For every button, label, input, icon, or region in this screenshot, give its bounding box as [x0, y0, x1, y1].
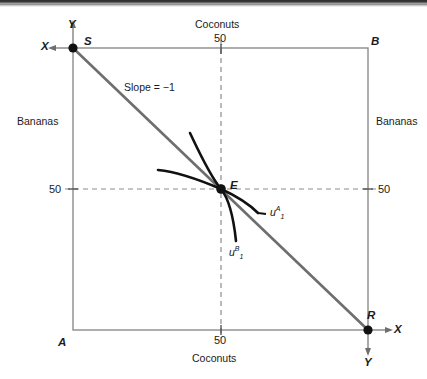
axis-arrow-r-x-head	[385, 327, 393, 333]
label-corner-a: A	[58, 337, 66, 349]
util-a-subscript: 1	[281, 213, 285, 220]
label-equilibrium-e: E	[230, 180, 238, 192]
point-r-dot	[363, 325, 372, 334]
label-axis-y-top-left: Y	[68, 19, 76, 31]
figure-canvas: Y X S B A R X Y Coconuts 50 Coconuts 50 …	[0, 0, 427, 379]
label-axis-x-top-left: X	[41, 41, 49, 53]
label-corner-r: R	[367, 310, 375, 322]
edgeworth-box-svg	[0, 0, 427, 379]
util-a-superscript: A	[276, 205, 281, 212]
tick-label-right-50: 50	[378, 184, 390, 195]
label-indifference-curve-b: uB1	[229, 245, 243, 260]
label-top-commodity: Coconuts	[195, 19, 239, 30]
label-axis-y-bottom-right: Y	[364, 357, 372, 369]
axis-arrow-r-y-head	[365, 348, 371, 356]
label-indifference-curve-a: uA1	[270, 205, 284, 220]
label-right-commodity: Bananas	[376, 116, 417, 127]
point-s-dot	[68, 43, 77, 52]
label-bottom-commodity: Coconuts	[192, 353, 236, 364]
tick-label-bottom-50: 50	[214, 335, 226, 346]
label-axis-x-bottom-right: X	[394, 324, 402, 336]
leader-line-u1a	[258, 213, 266, 214]
point-e-dot	[216, 184, 226, 194]
util-b-subscript: 1	[240, 253, 244, 260]
label-corner-s: S	[84, 36, 92, 48]
label-left-commodity: Bananas	[17, 116, 58, 127]
label-corner-b: B	[371, 36, 379, 48]
util-b-superscript: B	[235, 245, 240, 252]
tick-label-left-50: 50	[49, 184, 61, 195]
tick-label-top-50: 50	[214, 33, 226, 44]
axis-arrow-s-x-head	[48, 45, 56, 51]
label-slope-annotation: Slope = −1	[124, 82, 175, 93]
